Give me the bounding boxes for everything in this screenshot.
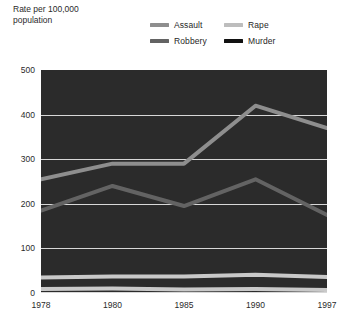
crime-rate-line-chart: Rate per 100,000 population Assault Rape… — [0, 0, 342, 330]
y-tick-200: 200 — [5, 199, 35, 209]
x-tick-1997: 1997 — [307, 300, 342, 310]
series-line-rape — [41, 275, 327, 278]
chart-legend: Assault Rape Robbery Murder — [150, 17, 335, 49]
y-tick-400: 400 — [5, 110, 35, 120]
series-line-murder — [41, 289, 327, 290]
data-series-lines — [41, 70, 327, 293]
y-tick-0: 0 — [5, 288, 35, 298]
y-tick-300: 300 — [5, 154, 35, 164]
legend-swatch-robbery — [150, 39, 169, 43]
y-tick-500: 500 — [5, 65, 35, 75]
legend-label-murder: Murder — [248, 36, 276, 46]
series-line-assault — [41, 106, 327, 180]
legend-item-assault: Assault — [150, 20, 224, 30]
legend-label-assault: Assault — [174, 20, 203, 30]
y-tick-100: 100 — [5, 243, 35, 253]
x-tick-1990: 1990 — [236, 300, 276, 310]
legend-item-robbery: Robbery — [150, 36, 224, 46]
legend-item-murder: Murder — [224, 36, 298, 46]
plot-area — [41, 70, 327, 293]
x-tick-1985: 1985 — [164, 300, 204, 310]
legend-item-rape: Rape — [224, 20, 298, 30]
legend-swatch-assault — [150, 23, 169, 27]
legend-swatch-rape — [224, 23, 243, 27]
series-line-robbery — [41, 179, 327, 215]
x-tick-1980: 1980 — [93, 300, 133, 310]
x-tick-1978: 1978 — [21, 300, 61, 310]
legend-swatch-murder — [224, 39, 243, 43]
legend-label-rape: Rape — [248, 20, 269, 30]
legend-label-robbery: Robbery — [174, 36, 207, 46]
y-axis-title: Rate per 100,000 population — [13, 4, 143, 25]
